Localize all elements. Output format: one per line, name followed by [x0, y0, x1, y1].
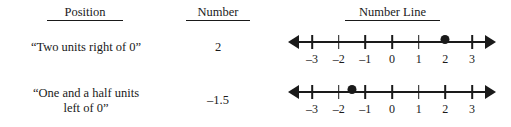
right-arrowhead-icon	[485, 85, 496, 99]
tick-label: –3	[306, 52, 318, 66]
tick-label: 1	[416, 52, 422, 66]
right-arrowhead-icon	[485, 35, 496, 49]
tick-label: –2	[333, 102, 345, 116]
plotted-point-marker	[348, 85, 357, 94]
tick-label: –1	[359, 52, 371, 66]
tick-label: –2	[333, 52, 345, 66]
tick-mark	[338, 85, 340, 99]
tick-label: 3	[469, 102, 475, 116]
tick-mark	[471, 35, 473, 49]
tick-mark	[391, 35, 393, 49]
tick-mark	[365, 35, 367, 49]
tick-label: 0	[389, 102, 395, 116]
left-arrowhead-icon	[288, 85, 299, 99]
tick-mark	[445, 85, 447, 99]
table-row-number-0: 2	[186, 40, 250, 55]
left-arrowhead-icon	[288, 35, 299, 49]
tick-label: 0	[389, 52, 395, 66]
table-row-position-1: “One and a half units left of 0”	[6, 86, 166, 116]
plotted-point-marker	[441, 35, 450, 44]
number-line-figure-0: –3–2–10123	[288, 30, 496, 72]
tick-label: –3	[306, 102, 318, 116]
tick-mark	[311, 85, 313, 99]
table-row-number-1: –1.5	[186, 93, 250, 108]
column-header-position: Position	[47, 5, 123, 21]
tick-label: 2	[442, 102, 448, 116]
tick-mark	[418, 35, 420, 49]
number-line-table: Position Number Number Line “Two units r…	[0, 0, 511, 127]
column-header-number: Number	[186, 5, 250, 21]
tick-label: 1	[416, 102, 422, 116]
tick-mark	[338, 35, 340, 49]
tick-mark	[365, 85, 367, 99]
tick-mark	[311, 35, 313, 49]
number-line-figure-1: –3–2–10123	[288, 80, 496, 122]
tick-label: 2	[442, 52, 448, 66]
column-header-number-line: Number Line	[345, 5, 440, 21]
tick-mark	[471, 85, 473, 99]
table-row-position-0: “Two units right of 0”	[6, 40, 166, 55]
tick-label: 3	[469, 52, 475, 66]
tick-mark	[418, 85, 420, 99]
tick-label: –1	[359, 102, 371, 116]
tick-mark	[391, 85, 393, 99]
